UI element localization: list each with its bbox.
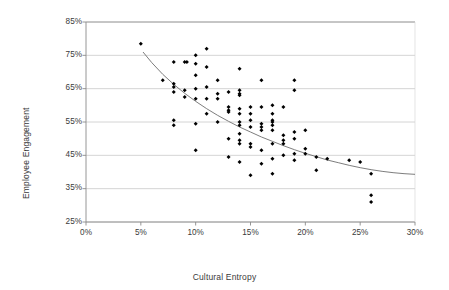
data-point-marker bbox=[205, 112, 209, 116]
data-point-marker bbox=[292, 137, 296, 141]
data-point-marker bbox=[205, 65, 209, 69]
data-point-marker bbox=[238, 112, 242, 116]
data-point-marker bbox=[270, 172, 274, 176]
data-point-marker bbox=[259, 162, 263, 166]
data-point-marker bbox=[172, 60, 176, 64]
data-point-marker bbox=[292, 78, 296, 82]
data-point-marker bbox=[369, 172, 373, 176]
data-point-marker bbox=[172, 123, 176, 127]
y-axis-tick-label: 65% bbox=[44, 83, 82, 92]
x-axis-tick-label: 30% bbox=[395, 228, 435, 237]
data-point-marker bbox=[205, 47, 209, 51]
trendline-path bbox=[143, 52, 415, 174]
data-point-marker bbox=[194, 62, 198, 66]
data-point-marker bbox=[270, 123, 274, 127]
data-point-marker bbox=[292, 158, 296, 162]
data-point-marker bbox=[216, 97, 220, 101]
data-point-marker bbox=[194, 53, 198, 57]
y-axis-tick-label: 55% bbox=[44, 117, 82, 126]
y-axis-tick-label: 85% bbox=[44, 17, 82, 26]
data-point-marker bbox=[249, 173, 253, 177]
data-point-marker bbox=[194, 87, 198, 91]
data-point-marker bbox=[270, 112, 274, 116]
data-point-marker bbox=[281, 133, 285, 137]
data-point-marker bbox=[281, 153, 285, 157]
y-axis-tick-label: 45% bbox=[44, 150, 82, 159]
scatter-chart: 25%35%45%55%65%75%85% 0%5%10%15%20%25%30… bbox=[0, 0, 449, 290]
data-point-marker bbox=[227, 90, 231, 94]
data-point-marker bbox=[216, 78, 220, 82]
trendline bbox=[143, 52, 415, 174]
x-axis-tick-label: 5% bbox=[121, 228, 161, 237]
data-point-marker bbox=[238, 142, 242, 146]
data-point-marker bbox=[259, 105, 263, 109]
y-axis-tick-label: 35% bbox=[44, 183, 82, 192]
data-point-marker bbox=[259, 78, 263, 82]
data-point-marker bbox=[259, 148, 263, 152]
y-axis-tick-label: 25% bbox=[44, 217, 82, 226]
data-points bbox=[139, 42, 373, 204]
y-axis-tick-label: 75% bbox=[44, 50, 82, 59]
data-point-marker bbox=[161, 78, 165, 82]
x-axis-title: Cultural Entropy bbox=[0, 272, 449, 282]
data-point-marker bbox=[238, 67, 242, 71]
data-point-marker bbox=[185, 60, 189, 64]
data-point-marker bbox=[249, 125, 253, 129]
y-tick-marks bbox=[83, 22, 87, 222]
data-point-marker bbox=[259, 128, 263, 132]
data-point-marker bbox=[227, 137, 231, 141]
data-point-marker bbox=[238, 107, 242, 111]
data-point-marker bbox=[194, 148, 198, 152]
data-point-marker bbox=[238, 132, 242, 136]
data-point-marker bbox=[172, 90, 176, 94]
data-point-marker bbox=[270, 157, 274, 161]
data-point-marker bbox=[369, 200, 373, 204]
x-axis-tick-label: 20% bbox=[285, 228, 325, 237]
data-point-marker bbox=[194, 73, 198, 77]
chart-plot-svg bbox=[0, 0, 449, 290]
y-axis-title: Employee Engagement bbox=[21, 107, 31, 199]
data-point-marker bbox=[183, 95, 187, 99]
data-point-marker bbox=[216, 120, 220, 124]
data-point-marker bbox=[249, 112, 253, 116]
x-axis-tick-label: 0% bbox=[66, 228, 106, 237]
data-point-marker bbox=[369, 193, 373, 197]
x-axis-tick-label: 15% bbox=[231, 228, 271, 237]
data-point-marker bbox=[358, 160, 362, 164]
data-point-marker bbox=[139, 42, 143, 46]
data-point-marker bbox=[292, 130, 296, 134]
data-point-marker bbox=[249, 105, 253, 109]
data-point-marker bbox=[216, 92, 220, 96]
x-axis-tick-label: 25% bbox=[340, 228, 380, 237]
x-tick-marks bbox=[86, 222, 415, 226]
data-point-marker bbox=[314, 168, 318, 172]
data-point-marker bbox=[347, 158, 351, 162]
data-point-marker bbox=[238, 160, 242, 164]
data-point-marker bbox=[205, 97, 209, 101]
data-point-marker bbox=[249, 145, 253, 149]
data-point-marker bbox=[270, 128, 274, 132]
data-point-marker bbox=[303, 147, 307, 151]
x-axis-tick-label: 10% bbox=[176, 228, 216, 237]
data-point-marker bbox=[281, 105, 285, 109]
data-point-marker bbox=[303, 128, 307, 132]
data-point-marker bbox=[270, 103, 274, 107]
